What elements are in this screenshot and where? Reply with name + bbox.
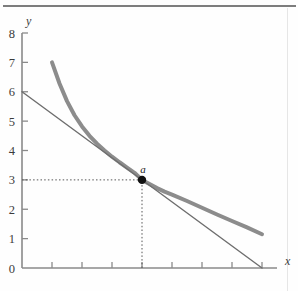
y-tick-label: 2 <box>9 203 15 217</box>
y-tick-label: 1 <box>9 232 15 246</box>
y-tick-label: 3 <box>9 173 15 187</box>
chart-container: 012345678 012345678 y x a <box>0 8 298 276</box>
indifference-curve <box>52 62 262 234</box>
x-tick-label: 1 <box>49 273 55 276</box>
guide-lines <box>22 180 142 268</box>
x-tick-label: 4 <box>139 273 146 276</box>
data-points: a <box>138 163 146 184</box>
y-tick-label: 4 <box>9 144 16 158</box>
x-tick-label: 6 <box>199 273 205 276</box>
x-axis-tick-labels: 012345678 <box>19 273 265 276</box>
y-tick-label: 6 <box>9 85 15 99</box>
axis-lines <box>22 33 277 268</box>
indifference-curve-chart: 012345678 012345678 y x a <box>0 8 298 276</box>
y-axis-label: y <box>25 14 32 28</box>
x-tick-label: 5 <box>169 273 175 276</box>
x-tick-label: 2 <box>79 273 85 276</box>
y-tick-label: 7 <box>9 56 15 70</box>
y-axis-ticks <box>22 33 28 239</box>
x-axis-label: x <box>284 254 291 268</box>
y-tick-label: 0 <box>9 262 15 276</box>
x-tick-label: 7 <box>229 273 235 276</box>
point-label-a: a <box>140 163 146 175</box>
x-tick-label: 3 <box>109 273 115 276</box>
x-tick-label: 0 <box>19 273 25 276</box>
y-tick-label: 5 <box>9 115 15 129</box>
figure-page: 012345678 012345678 y x a <box>0 0 298 291</box>
y-tick-label: 8 <box>9 27 15 41</box>
x-axis-ticks <box>52 262 262 268</box>
point-marker-a <box>138 176 146 184</box>
y-axis-tick-labels: 012345678 <box>9 27 16 276</box>
x-tick-label: 8 <box>259 273 265 276</box>
top-divider-rule <box>3 5 296 7</box>
